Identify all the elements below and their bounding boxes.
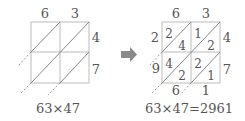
cell-1-0-tens: 4 bbox=[165, 57, 173, 71]
cell-0-1-tens: 1 bbox=[194, 27, 202, 41]
result-digit-tens: 6 bbox=[172, 83, 180, 98]
left-top-digit-1: 3 bbox=[71, 6, 79, 21]
result-digit-thousands: 2 bbox=[151, 30, 159, 45]
arrow-right-icon bbox=[121, 47, 137, 62]
result-digit-hundreds: 9 bbox=[152, 61, 160, 76]
right-lattice: 6 3 4 7 2 4 1 2 4 2 2 1 2 9 6 1 63×47=29… bbox=[145, 6, 233, 116]
cell-0-1-ones: 2 bbox=[207, 39, 215, 53]
left-right-digit-1: 7 bbox=[92, 62, 100, 77]
right-top-digit-1: 3 bbox=[202, 6, 210, 21]
result-digit-ones: 1 bbox=[202, 83, 210, 98]
right-top-digit-0: 6 bbox=[172, 6, 180, 21]
left-right-digit-0: 4 bbox=[92, 30, 100, 45]
right-right-digit-0: 4 bbox=[223, 30, 231, 45]
left-lattice: 6 3 4 7 63×47 bbox=[18, 6, 100, 116]
right-caption: 63×47=2961 bbox=[145, 101, 233, 116]
cell-1-1-tens: 2 bbox=[194, 57, 202, 71]
cell-1-0-ones: 2 bbox=[178, 69, 186, 83]
cell-1-1-ones: 1 bbox=[207, 69, 215, 83]
cell-0-0-tens: 2 bbox=[165, 27, 173, 41]
right-right-digit-1: 7 bbox=[223, 62, 231, 77]
left-caption: 63×47 bbox=[36, 101, 80, 116]
cell-0-0-ones: 4 bbox=[178, 39, 186, 53]
lattice-diagram: 6 3 4 7 63×47 6 3 4 7 2 4 1 2 4 2 2 1 2 bbox=[0, 0, 245, 121]
left-top-digit-0: 6 bbox=[41, 6, 49, 21]
